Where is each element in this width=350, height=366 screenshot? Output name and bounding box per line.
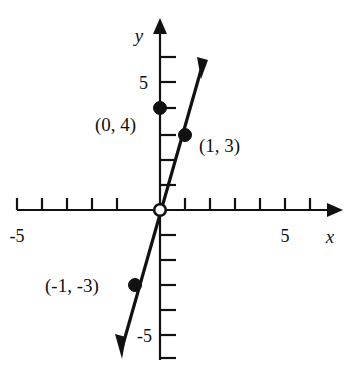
- y-tick-label-negative-5: -5: [137, 326, 152, 346]
- x-axis-arrow-icon: [327, 203, 343, 217]
- x-axis-group: -5 5 x: [10, 198, 344, 247]
- y-axis-arrow-icon: [153, 18, 167, 34]
- graph-line-arrow-down-icon: [115, 334, 126, 359]
- y-axis-title: y: [133, 25, 144, 46]
- y-tick-label-positive-5: 5: [139, 73, 148, 93]
- point-label-neg1-neg3: (-1, -3): [45, 275, 99, 297]
- y-axis-group: 5 -5 y: [133, 18, 176, 360]
- x-tick-label-negative-5: -5: [10, 226, 25, 246]
- point-label-0-4: (0, 4): [95, 114, 136, 136]
- point-marker-neg1-neg3: [129, 279, 142, 292]
- coordinate-plane-figure: -5 5 x 5 -5 y: [0, 0, 350, 366]
- point-marker-1-3: [179, 129, 192, 142]
- point-label-1-3: (1, 3): [199, 135, 240, 157]
- point-marker-0-4: [154, 102, 167, 115]
- x-axis-title: x: [325, 226, 335, 247]
- point-marker-origin-open: [154, 204, 166, 216]
- x-tick-label-positive-5: 5: [281, 226, 290, 246]
